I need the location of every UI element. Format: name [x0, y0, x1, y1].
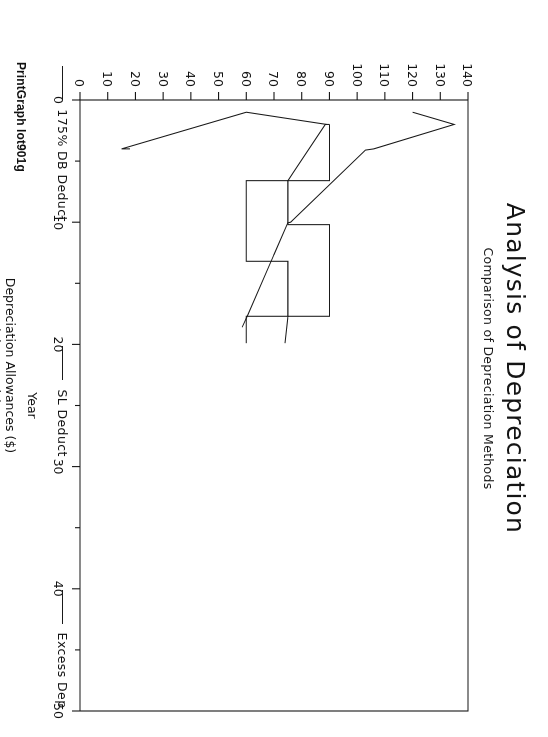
series-line-excess-dep-lower [122, 112, 327, 149]
series-line-175-db-deduct [242, 112, 454, 327]
legend-line-swatch [62, 66, 63, 100]
x-axis-title: Year [25, 391, 40, 419]
chart-tick-labels: 0102030405001020304050607080901001101201… [25, 63, 476, 719]
legend-label: 175% DB Deduct [55, 109, 70, 221]
y-tick-label: 90 [322, 71, 337, 87]
page-rotator: Analysis of Depreciation Comparison of D… [0, 0, 548, 737]
plot-area: 0102030405001020304050607080901001101201… [0, 0, 548, 737]
y-tick-label: 0 [73, 79, 88, 87]
legend-label: Excess Dep [55, 633, 70, 709]
legend-item-excess-dep: Excess Dep [55, 590, 70, 709]
chart-series [122, 112, 455, 343]
y-tick-label: 50 [211, 71, 226, 87]
chart-svg: 0102030405001020304050607080901001101201… [0, 0, 548, 737]
chart-legend: 175% DB DeductSL DeductExcess Dep [44, 0, 70, 737]
y-axis-title-line2: (Thousands) [0, 60, 3, 671]
y-tick-label: 120 [405, 63, 420, 87]
y-tick-label: 80 [294, 71, 309, 87]
y-tick-label: 130 [433, 63, 448, 87]
legend-item-sl-deduct: SL Deduct [55, 346, 70, 456]
y-tick-label: 60 [239, 71, 254, 87]
chart-axes [72, 92, 468, 711]
y-tick-label: 110 [377, 63, 392, 87]
y-tick-label: 30 [156, 71, 171, 87]
y-tick-label: 140 [461, 63, 476, 87]
legend-line-swatch [62, 346, 63, 380]
y-tick-label: 10 [100, 71, 115, 87]
footer-label: PrintGraph lot901g [14, 62, 28, 172]
y-tick-label: 40 [183, 71, 198, 87]
legend-item-175-db-deduct: 175% DB Deduct [55, 66, 70, 221]
series-line-excess-dep [246, 124, 329, 343]
y-tick-label: 70 [267, 71, 282, 87]
y-tick-label: 20 [128, 71, 143, 87]
legend-line-swatch [62, 590, 63, 624]
series-line-sl-deduct [285, 124, 329, 343]
printgraph-sheet: Analysis of Depreciation Comparison of D… [0, 0, 548, 737]
y-tick-label: 100 [350, 63, 365, 87]
legend-label: SL Deduct [55, 389, 70, 456]
